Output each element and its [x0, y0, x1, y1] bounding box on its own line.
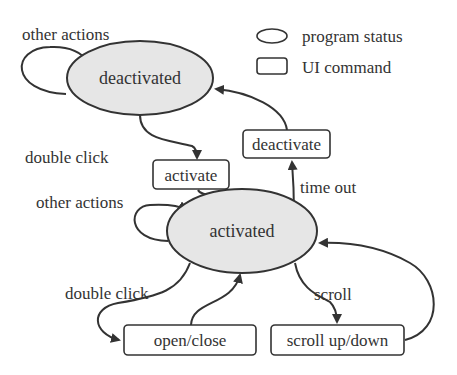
state-deactivated: deactivated	[67, 41, 213, 115]
command-scroll-up-down: scroll up/down	[271, 325, 404, 355]
diagram-canvas: program status UI command other actions …	[0, 0, 457, 375]
legend-label-program-status: program status	[302, 27, 403, 46]
legend-label-ui-command: UI command	[302, 58, 392, 77]
edge-label-scroll: scroll	[314, 285, 352, 304]
command-label-deactivate: deactivate	[252, 135, 321, 154]
edge-label-double-click-top: double click	[25, 148, 109, 167]
edge-label-other-actions-mid: other actions	[36, 193, 123, 212]
legend-ellipse-icon	[257, 29, 287, 43]
command-label-scroll-up-down: scroll up/down	[287, 331, 389, 350]
command-open-close: open/close	[124, 325, 256, 355]
legend-rect-icon	[257, 58, 287, 74]
command-label-open-close: open/close	[154, 331, 227, 350]
edge-label-other-actions-top: other actions	[22, 25, 109, 44]
edge-deactivated-to-activate	[140, 115, 197, 158]
state-label-deactivated: deactivated	[99, 68, 181, 88]
edge-label-double-click-bottom: double click	[65, 284, 149, 303]
edge-deactivate-to-deactivated	[216, 89, 287, 130]
legend: program status UI command	[257, 27, 403, 77]
command-label-activate: activate	[165, 166, 218, 185]
edge-open-close-to-activated	[191, 275, 240, 325]
command-activate: activate	[153, 160, 229, 189]
state-activated: activated	[167, 189, 317, 273]
state-diagram: program status UI command other actions …	[0, 0, 457, 375]
edge-label-time-out: time out	[300, 178, 356, 197]
state-label-activated: activated	[210, 221, 275, 241]
command-deactivate: deactivate	[243, 130, 330, 158]
